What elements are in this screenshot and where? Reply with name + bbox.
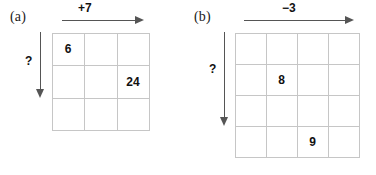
arrow-head-right-icon xyxy=(345,16,354,24)
panel-b-grid: 8 9 xyxy=(235,33,360,158)
grid-line-horizontal xyxy=(52,130,150,131)
panel-b-cell-value: 9 xyxy=(297,126,328,157)
arrow-shaft xyxy=(224,32,225,117)
grid-line-vertical xyxy=(328,33,329,158)
panel-a-cell-value: 6 xyxy=(52,33,84,65)
panel-a-label: (a) xyxy=(10,9,26,25)
panel-a-row-step-label: ? xyxy=(25,54,32,68)
grid-line-vertical xyxy=(266,33,267,158)
panel-b-label: (b) xyxy=(194,9,211,25)
grid-line-vertical xyxy=(235,33,236,158)
arrow-shaft xyxy=(40,32,41,89)
panel-b-row-step-label: ? xyxy=(209,62,216,76)
panel-a-column-step-label: +7 xyxy=(78,1,92,15)
grid-line-vertical xyxy=(84,33,85,131)
arrow-head-right-icon xyxy=(135,16,144,24)
arrow-shaft xyxy=(244,20,345,21)
grid-line-vertical xyxy=(359,33,360,158)
arrow-head-down-icon xyxy=(220,117,228,126)
panel-a: (a) +7 ? 6 24 xyxy=(0,0,188,175)
panel-a-cell-value: 24 xyxy=(117,65,149,98)
arrow-shaft xyxy=(62,20,135,21)
panel-b-column-step-label: −3 xyxy=(282,1,296,15)
panel-b-cell-value: 8 xyxy=(266,64,297,95)
panel-b: (b) −3 ? 8 9 xyxy=(188,0,376,175)
panel-a-grid: 6 24 xyxy=(52,33,150,131)
grid-line-vertical xyxy=(149,33,150,131)
grid-line-horizontal xyxy=(52,98,150,99)
arrow-head-down-icon xyxy=(36,89,44,98)
